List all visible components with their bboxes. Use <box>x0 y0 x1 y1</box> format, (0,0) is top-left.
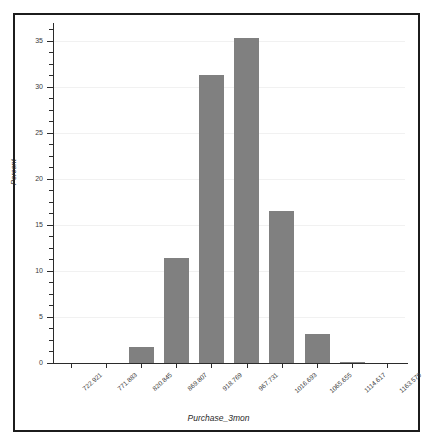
x-tick-label: 918.769 <box>221 371 243 392</box>
y-tick-label: 20 <box>23 175 43 182</box>
bar <box>269 211 294 363</box>
y-tick-minor <box>49 167 53 168</box>
x-tick <box>317 363 318 368</box>
x-tick-label: 820.845 <box>151 371 173 392</box>
x-tick <box>176 363 177 368</box>
y-tick-label: 15 <box>23 221 43 228</box>
gridline <box>53 133 405 134</box>
y-tick-minor <box>49 259 53 260</box>
y-tick-minor <box>49 340 53 341</box>
x-tick-label: 1065.655 <box>328 371 353 394</box>
y-tick-major <box>47 179 53 180</box>
x-tick-label: 722.921 <box>81 371 103 392</box>
y-tick-major <box>47 317 53 318</box>
y-tick-minor <box>49 75 53 76</box>
y-tick-minor <box>49 236 53 237</box>
x-tick <box>352 363 353 368</box>
y-axis-line <box>53 23 54 363</box>
bar <box>305 334 330 363</box>
plot-area: 05101520253035 722.921771.883820.845869.… <box>15 15 418 430</box>
y-tick-minor <box>49 282 53 283</box>
y-tick-major <box>47 41 53 42</box>
bar <box>164 258 189 363</box>
y-axis-title: Percent <box>9 159 18 185</box>
y-tick-minor <box>49 305 53 306</box>
y-tick-minor <box>49 328 53 329</box>
y-tick-minor <box>49 156 53 157</box>
y-tick-minor <box>49 351 53 352</box>
gridline <box>53 179 405 180</box>
gridline <box>53 271 405 272</box>
gridline <box>53 317 405 318</box>
x-tick <box>71 363 72 368</box>
y-tick-label: 10 <box>23 267 43 274</box>
chart-frame: 05101520253035 722.921771.883820.845869.… <box>13 13 420 432</box>
y-tick-label: 5 <box>23 313 43 320</box>
x-tick <box>282 363 283 368</box>
bar <box>199 75 224 363</box>
y-tick-label: 25 <box>23 129 43 136</box>
y-tick-minor <box>49 121 53 122</box>
y-tick-label: 0 <box>23 359 43 366</box>
bar <box>129 347 154 363</box>
y-tick-minor <box>49 190 53 191</box>
y-tick-major <box>47 225 53 226</box>
x-tick <box>106 363 107 368</box>
y-tick-minor <box>49 29 53 30</box>
x-tick-label: 1114.617 <box>363 371 387 394</box>
x-tick <box>211 363 212 368</box>
y-tick-minor <box>49 202 53 203</box>
x-tick-label: 1163.579 <box>398 371 422 394</box>
y-tick-minor <box>49 248 53 249</box>
x-tick <box>387 363 388 368</box>
gridline <box>53 41 405 42</box>
y-tick-minor <box>49 144 53 145</box>
x-tick <box>247 363 248 368</box>
y-tick-label: 35 <box>23 37 43 44</box>
y-tick-major <box>47 363 53 364</box>
x-tick-label: 967.731 <box>257 371 279 392</box>
x-tick-label: 869.807 <box>186 371 208 392</box>
gridline <box>53 225 405 226</box>
y-tick-major <box>47 87 53 88</box>
bar <box>234 38 259 363</box>
y-tick-major <box>47 133 53 134</box>
x-tick <box>141 363 142 368</box>
y-tick-minor <box>49 52 53 53</box>
y-tick-minor <box>49 64 53 65</box>
y-tick-label: 30 <box>23 83 43 90</box>
x-tick-label: 1016.693 <box>293 371 318 394</box>
y-tick-major <box>47 271 53 272</box>
x-tick-label: 771.883 <box>116 371 138 392</box>
y-tick-minor <box>49 110 53 111</box>
y-tick-minor <box>49 98 53 99</box>
x-axis-title: Purchase_3mon <box>15 413 422 423</box>
y-tick-minor <box>49 294 53 295</box>
gridline <box>53 87 405 88</box>
y-tick-minor <box>49 213 53 214</box>
